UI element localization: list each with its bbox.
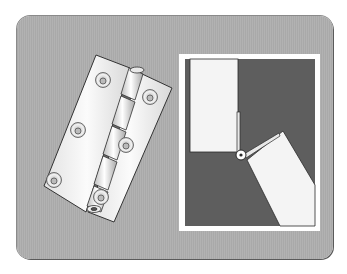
cross-section-inset [179,54,320,231]
hinge-3d [44,55,172,222]
hinge-illustration [0,0,347,274]
door-fixed [190,59,238,152]
